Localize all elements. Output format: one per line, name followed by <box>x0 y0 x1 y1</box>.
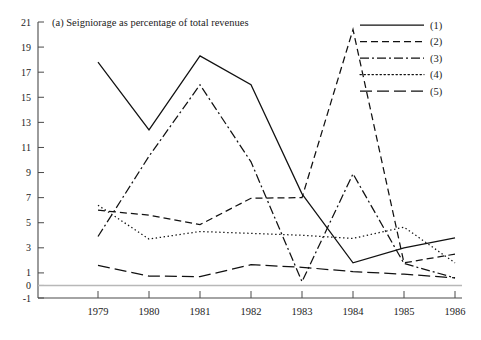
legend-label-2: (2) <box>430 36 443 48</box>
chart-background <box>0 0 481 340</box>
y-axis-tick-label: 1 <box>26 267 31 278</box>
y-axis-tick-label: 13 <box>21 117 31 128</box>
y-axis-tick-label: 9 <box>26 167 31 178</box>
x-axis-tick-label: 1980 <box>139 306 160 317</box>
legend-label-5: (5) <box>430 86 443 98</box>
y-axis-tick-label: 21 <box>21 17 31 28</box>
x-axis-tick-label: 1979 <box>88 306 109 317</box>
x-axis-tick-label: 1981 <box>190 306 211 317</box>
y-axis-tick-label: 15 <box>21 92 31 103</box>
x-axis-tick-label: 1982 <box>241 306 262 317</box>
x-axis-tick-label: 1986 <box>445 306 466 317</box>
seigniorage-line-chart: 211917151311975310-1 1979198019811982198… <box>0 0 481 340</box>
y-axis-tick-label: 3 <box>26 242 31 253</box>
y-axis-tick-label: 17 <box>21 67 31 78</box>
legend-label-4: (4) <box>430 69 443 81</box>
chart-title: (a) Seigniorage as percentage of total r… <box>52 17 249 29</box>
y-axis-tick-label: 7 <box>26 192 31 203</box>
chart-figure: 211917151311975310-1 1979198019811982198… <box>0 0 481 340</box>
legend-label-1: (1) <box>430 20 443 32</box>
y-axis-tick-label: 11 <box>21 142 31 153</box>
x-axis-tick-label: 1985 <box>394 306 415 317</box>
legend-label-3: (3) <box>430 53 443 65</box>
x-axis-tick-label: 1984 <box>343 306 365 317</box>
y-axis-tick-label: -1 <box>23 293 31 304</box>
y-axis-tick-label: 19 <box>21 42 31 53</box>
x-axis-tick-label: 1983 <box>292 306 313 317</box>
y-axis-tick-label: 5 <box>26 217 31 228</box>
y-axis-tick-label: 0 <box>26 280 31 291</box>
